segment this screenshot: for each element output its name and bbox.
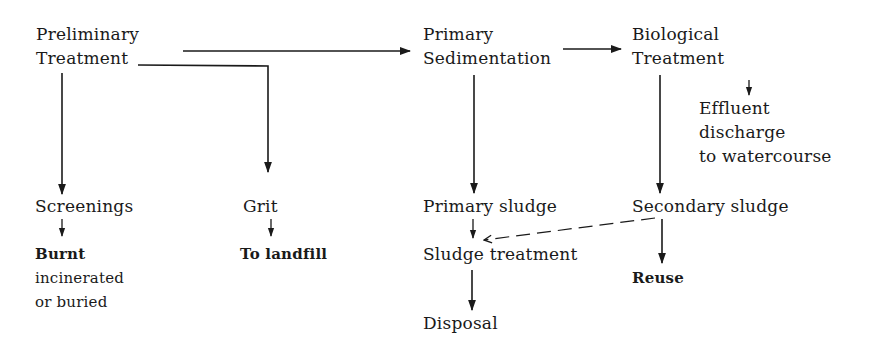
node-preliminary-treatment-line-1: Preliminary <box>36 22 139 46</box>
node-biological-treatment: Biological Treatment <box>632 22 724 70</box>
node-primary-sludge: Primary sludge <box>423 194 557 218</box>
arrow-preliminary-to-grit <box>138 65 268 172</box>
node-screenings: Screenings <box>35 194 133 218</box>
node-screenings-fate-line-3: or buried <box>35 290 124 314</box>
node-biological-treatment-line-1: Biological <box>632 22 724 46</box>
node-primary-sedimentation-line-2: Sedimentation <box>423 46 551 70</box>
node-sludge-treatment: Sludge treatment <box>423 242 577 266</box>
node-effluent-line-1: Effluent <box>699 96 832 120</box>
node-preliminary-treatment: Preliminary Treatment <box>36 22 139 70</box>
node-disposal: Disposal <box>423 311 498 335</box>
node-biological-treatment-line-2: Treatment <box>632 46 724 70</box>
node-primary-sedimentation: Primary Sedimentation <box>423 22 551 70</box>
node-reuse: Reuse <box>632 266 684 290</box>
node-preliminary-treatment-line-2: Treatment <box>36 46 139 70</box>
wastewater-treatment-flow-diagram: Preliminary Treatment Primary Sedimentat… <box>0 0 871 354</box>
node-screenings-fate: Burnt incinerated or buried <box>35 242 124 314</box>
node-effluent-line-2: discharge <box>699 120 832 144</box>
node-screenings-fate-line-1: Burnt <box>35 242 124 266</box>
node-grit: Grit <box>243 194 278 218</box>
node-primary-sedimentation-line-1: Primary <box>423 22 551 46</box>
node-grit-fate: To landfill <box>240 242 327 266</box>
node-effluent-line-3: to watercourse <box>699 144 832 168</box>
node-secondary-sludge: Secondary sludge <box>632 194 789 218</box>
node-screenings-fate-line-2: incinerated <box>35 266 124 290</box>
arrow-secondary-sludge-to-sludge-treatment-dashed <box>484 218 655 240</box>
node-effluent-discharge: Effluent discharge to watercourse <box>699 96 832 168</box>
